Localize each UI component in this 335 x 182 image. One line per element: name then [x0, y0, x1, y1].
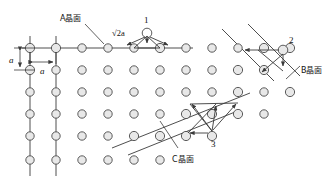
lattice-atom [78, 110, 86, 118]
plane-a-grid-lines [22, 36, 193, 176]
lattice-atom [156, 88, 164, 96]
lattice-atom [260, 110, 268, 118]
lattice-atom [208, 88, 216, 96]
lattice-atom [156, 110, 164, 118]
marker-2-vector-diag [262, 54, 283, 72]
lattice-atom [130, 66, 138, 74]
lattice-atom [233, 65, 242, 74]
lattice-atom [26, 156, 34, 164]
sqrt-2a-label: √2a [112, 28, 125, 38]
lattice-atom [104, 132, 112, 140]
lattice-atom [181, 131, 190, 140]
lattice-atom [156, 66, 164, 74]
lattice-atom [78, 88, 86, 96]
lattice-atom [104, 44, 112, 52]
dimension-label-horizontal-a: a [40, 66, 45, 76]
lattice-diagram-svg: a a A晶面 B晶面 C晶面 1 2 3 √2a [0, 0, 335, 182]
lattice-atom [52, 66, 60, 74]
lattice-atom [130, 110, 138, 118]
lattice-atom [78, 156, 86, 164]
lattice-atom [233, 87, 242, 96]
lattice-atom [181, 109, 190, 118]
plane-a-annotation: A晶面 [60, 14, 104, 44]
lattice-atom [130, 156, 138, 164]
lattice-atom [52, 156, 60, 164]
lattice-atom [129, 131, 138, 140]
lattice-atom [234, 44, 242, 52]
lattice-atom [78, 132, 86, 140]
plane-b-label: B晶面 [301, 66, 323, 75]
lattice-atom [78, 44, 86, 52]
lattice-atom [78, 66, 86, 74]
lattice-atom [259, 43, 268, 52]
lattice-atom [26, 88, 34, 96]
marker-2-apex-atom [278, 45, 288, 55]
plane-b-leader-line [286, 66, 300, 79]
lattice-atom [26, 110, 34, 118]
lattice-atom [208, 44, 216, 52]
marker-1-edge-right [147, 36, 160, 48]
marker-1-label: 1 [144, 15, 149, 25]
lattice-atom [260, 88, 268, 96]
lattice-atom [182, 66, 190, 74]
lattice-atoms [25, 28, 294, 164]
diagonal-dimension-annotation: √2a [112, 28, 125, 38]
lattice-atom [104, 88, 112, 96]
marker-2-label: 2 [289, 35, 294, 45]
lattice-atom [233, 109, 242, 118]
lattice-atom [52, 132, 60, 140]
figure-root: a a A晶面 B晶面 C晶面 1 2 3 √2a [0, 0, 335, 182]
lattice-atom [155, 131, 164, 140]
lattice-atom [104, 156, 112, 164]
marker-1-edge-left [134, 36, 147, 48]
lattice-atom [208, 66, 216, 74]
plane-c-label: C晶面 [172, 155, 194, 164]
lattice-atom [130, 88, 138, 96]
lattice-atom [182, 44, 190, 52]
lattice-atom [104, 110, 112, 118]
dimension-label-vertical-a: a [9, 55, 14, 65]
lattice-atom [51, 43, 60, 52]
marker-3-label: 3 [211, 139, 216, 149]
lattice-atom [285, 87, 294, 96]
lattice-atom [52, 110, 60, 118]
marker-3-vector-upright [213, 104, 236, 130]
plane-c-lines [112, 93, 250, 155]
lattice-atom [26, 132, 34, 140]
lattice-atom [156, 156, 164, 164]
plane-a-label: A晶面 [60, 14, 81, 23]
lattice-atom [182, 88, 190, 96]
marker-3-edge-b [190, 103, 238, 104]
lattice-atom [104, 66, 112, 74]
plane-c-annotation: C晶面 [160, 121, 194, 164]
marker-1-vector-left [127, 37, 145, 45]
lattice-atom [52, 88, 60, 96]
plane-a-leader-line [85, 24, 104, 44]
